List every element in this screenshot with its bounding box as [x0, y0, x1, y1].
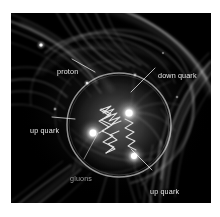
proton-illustration-plate: proton down quark up quark gluons up qua… [11, 13, 211, 203]
label-up-quark-left: up quark [30, 127, 59, 134]
label-proton: proton [57, 68, 78, 75]
quark-node-up-lower [120, 142, 148, 170]
quark-node-down [112, 96, 146, 130]
label-up-quark-right: up quark [150, 188, 179, 195]
figure-root: proton down quark up quark gluons up qua… [0, 0, 220, 217]
label-gluons: gluons [70, 175, 92, 182]
label-down-quark: down quark [158, 72, 197, 79]
proton-illustration-graphic [11, 13, 211, 203]
